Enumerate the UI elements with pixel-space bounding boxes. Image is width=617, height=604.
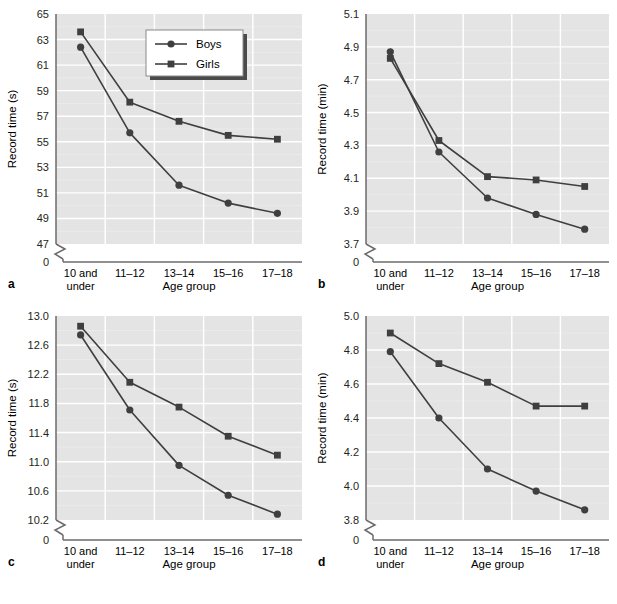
data-point-square bbox=[533, 403, 540, 410]
legend-marker-square bbox=[168, 61, 175, 68]
x-tick-label: 11–12 bbox=[424, 545, 454, 557]
data-point-square bbox=[77, 323, 84, 330]
data-point-circle bbox=[387, 348, 394, 355]
chart-svg-d: 3.84.04.24.44.64.85.0010 andunder11–1213… bbox=[310, 300, 617, 604]
x-tick-label: under bbox=[67, 558, 95, 570]
x-tick-label: 11–12 bbox=[115, 267, 145, 279]
legend-label: Boys bbox=[196, 38, 222, 50]
data-point-square bbox=[77, 28, 84, 35]
data-point-square bbox=[387, 330, 394, 337]
x-tick-label: 11–12 bbox=[424, 267, 454, 279]
y-tick-label: 4.1 bbox=[344, 172, 359, 184]
y-tick-label: 4.3 bbox=[344, 139, 359, 151]
y-tick-label: 4.4 bbox=[344, 412, 359, 424]
y-axis-title: Record time (s) bbox=[6, 379, 18, 458]
x-tick-label: under bbox=[376, 280, 404, 292]
chart-panel-c: 10.210.611.011.411.812.212.613.0010 andu… bbox=[0, 300, 310, 604]
data-point-square bbox=[581, 403, 588, 410]
y-tick-label: 5.1 bbox=[344, 8, 359, 20]
y-tick-label: 63 bbox=[37, 34, 49, 46]
y-axis-origin-label: 0 bbox=[43, 256, 49, 268]
data-point-square bbox=[176, 118, 183, 125]
data-point-circle bbox=[77, 331, 84, 338]
y-tick-labels: 3.84.04.24.44.64.85.0 bbox=[344, 310, 359, 526]
data-point-circle bbox=[274, 511, 281, 518]
y-tick-label: 4.5 bbox=[344, 107, 359, 119]
data-point-square bbox=[484, 379, 491, 386]
data-point-circle bbox=[435, 414, 442, 421]
y-tick-label: 4.9 bbox=[344, 41, 359, 53]
y-tick-label: 4.7 bbox=[344, 74, 359, 86]
data-point-square bbox=[387, 55, 394, 62]
y-tick-label: 4.6 bbox=[344, 378, 359, 390]
y-tick-label: 65 bbox=[37, 8, 49, 20]
data-point-square bbox=[126, 99, 133, 106]
data-point-circle bbox=[533, 488, 540, 495]
chart-panel-d: 3.84.04.24.44.64.85.0010 andunder11–1213… bbox=[310, 300, 617, 604]
y-tick-label: 12.2 bbox=[28, 368, 49, 380]
y-tick-label: 12.6 bbox=[28, 339, 49, 351]
data-point-circle bbox=[387, 48, 394, 55]
y-tick-label: 10.6 bbox=[28, 485, 49, 497]
y-tick-label: 4.8 bbox=[344, 344, 359, 356]
x-tick-label: 13–14 bbox=[164, 545, 195, 557]
data-point-circle bbox=[175, 462, 182, 469]
x-tick-label: 13–14 bbox=[164, 267, 195, 279]
data-point-circle bbox=[581, 226, 588, 233]
x-tick-label: 17–18 bbox=[569, 545, 600, 557]
y-tick-label: 13.0 bbox=[28, 310, 49, 322]
x-tick-label: under bbox=[376, 558, 404, 570]
x-tick-label: under bbox=[67, 280, 95, 292]
x-axis-title: Age group bbox=[162, 280, 215, 292]
panel-letter-a: a bbox=[8, 277, 15, 291]
panel-letter-c: c bbox=[8, 555, 15, 569]
x-tick-label: 10 and bbox=[64, 545, 98, 557]
y-tick-label: 10.2 bbox=[28, 514, 49, 526]
y-tick-label: 4.0 bbox=[344, 480, 359, 492]
data-point-circle bbox=[581, 506, 588, 513]
x-tick-label: 10 and bbox=[373, 267, 407, 279]
x-tick-label: 13–14 bbox=[472, 267, 503, 279]
y-tick-label: 51 bbox=[37, 187, 49, 199]
x-tick-label: 17–18 bbox=[262, 267, 293, 279]
legend: BoysGirls bbox=[146, 30, 247, 80]
x-tick-label: 11–12 bbox=[115, 545, 145, 557]
y-axis-title: Record time (min) bbox=[316, 372, 328, 464]
axis-break-symbol bbox=[365, 520, 375, 540]
data-point-circle bbox=[435, 148, 442, 155]
x-tick-label: 13–14 bbox=[472, 545, 503, 557]
data-point-square bbox=[225, 132, 232, 139]
x-tick-label: 17–18 bbox=[569, 267, 600, 279]
data-point-square bbox=[274, 452, 281, 459]
x-axis-title: Age group bbox=[471, 558, 524, 570]
x-tick-label: 15–16 bbox=[521, 267, 552, 279]
axis-break-symbol bbox=[55, 244, 65, 262]
data-point-square bbox=[436, 137, 443, 144]
data-point-circle bbox=[533, 211, 540, 218]
y-tick-label: 57 bbox=[37, 110, 49, 122]
x-tick-label: 17–18 bbox=[262, 545, 293, 557]
chart-svg-a: 47495153555759616365010 andunder11–1213–… bbox=[0, 0, 310, 300]
y-tick-label: 47 bbox=[37, 238, 49, 250]
data-point-circle bbox=[225, 200, 232, 207]
x-tick-label: 10 and bbox=[373, 545, 407, 557]
data-point-square bbox=[176, 404, 183, 411]
data-point-circle bbox=[126, 406, 133, 413]
y-tick-label: 59 bbox=[37, 85, 49, 97]
data-point-square bbox=[225, 433, 232, 440]
chart-panel-a: 47495153555759616365010 andunder11–1213–… bbox=[0, 0, 310, 300]
chart-svg-b: 3.73.94.14.34.54.74.95.1010 andunder11–1… bbox=[310, 0, 617, 300]
x-tick-label: 15–16 bbox=[521, 545, 552, 557]
data-point-circle bbox=[274, 210, 281, 217]
data-point-circle bbox=[484, 194, 491, 201]
data-point-square bbox=[436, 360, 443, 367]
x-tick-label: 15–16 bbox=[213, 267, 244, 279]
chart-svg-c: 10.210.611.011.411.812.212.613.0010 andu… bbox=[0, 300, 310, 604]
y-tick-labels: 3.73.94.14.34.54.74.95.1 bbox=[344, 8, 359, 250]
y-axis-origin-label: 0 bbox=[43, 534, 49, 546]
y-tick-label: 3.8 bbox=[344, 514, 359, 526]
y-tick-label: 55 bbox=[37, 136, 49, 148]
data-point-circle bbox=[225, 492, 232, 499]
figure-grid: 47495153555759616365010 andunder11–1213–… bbox=[0, 0, 617, 604]
data-point-square bbox=[484, 173, 491, 180]
